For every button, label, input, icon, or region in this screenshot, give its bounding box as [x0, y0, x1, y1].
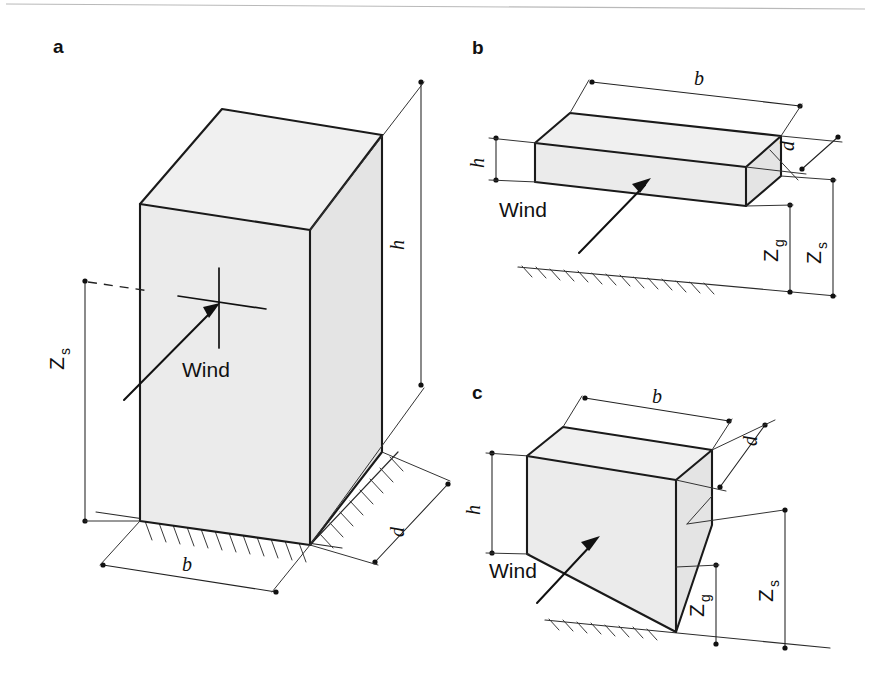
figure-page: a — [0, 0, 871, 692]
svg-text:h: h — [462, 505, 484, 515]
panel-b-Zg-label: Z g — [759, 239, 787, 262]
panel-b-Zs-dimension — [781, 176, 836, 299]
panel-c-b-label: b — [652, 385, 662, 407]
svg-text:g: g — [771, 239, 787, 247]
panel-b-h-dimension — [489, 135, 537, 182]
panel-a-d-label: d — [386, 526, 408, 537]
svg-text:Z: Z — [45, 357, 68, 370]
panel-b-Zg-dimension — [746, 202, 793, 294]
panel-a-letter: a — [53, 36, 64, 57]
panel-c-Zs-dimension — [782, 507, 787, 650]
panel-a-h-label: h — [386, 240, 408, 250]
panel-c-Zs-label: Z s — [754, 580, 782, 602]
panel-a: a — [45, 36, 451, 595]
panel-c: c — [462, 382, 830, 651]
panel-b-wind-label: Wind — [499, 198, 547, 221]
svg-text:d: d — [386, 526, 408, 537]
svg-text:Z: Z — [754, 589, 777, 602]
wind-load-diagram: a — [0, 0, 871, 692]
svg-text:d: d — [739, 435, 761, 446]
panel-c-h-label: h — [462, 505, 484, 515]
svg-text:h: h — [386, 240, 408, 250]
panel-b-b-label: b — [694, 67, 704, 89]
panel-c-ground — [545, 619, 830, 648]
panel-c-front-face — [527, 456, 676, 632]
panel-c-Zg-label: Z g — [685, 594, 713, 617]
svg-text:s: s — [814, 242, 830, 249]
panel-c-h-dimension — [486, 450, 529, 555]
panel-b-h-label: h — [466, 158, 488, 168]
panel-c-wind-label: Wind — [489, 559, 537, 582]
panel-a-wind-label: Wind — [182, 358, 230, 381]
panel-b: b — [466, 37, 842, 299]
svg-text:s: s — [766, 580, 782, 587]
panel-b-d-label: d — [776, 140, 798, 151]
svg-text:s: s — [57, 348, 73, 355]
panel-b-Zs-label: Z s — [802, 242, 830, 264]
panel-c-letter: c — [472, 382, 483, 403]
svg-text:Z: Z — [802, 251, 825, 264]
panel-a-Zs-label: Z s — [45, 348, 73, 370]
svg-text:g: g — [697, 594, 713, 602]
svg-text:d: d — [776, 140, 798, 151]
scan-artifact-line — [6, 4, 865, 9]
panel-b-letter: b — [472, 37, 484, 58]
svg-text:Z: Z — [759, 249, 782, 262]
panel-a-b-label: b — [182, 553, 192, 575]
panel-c-d-label: d — [739, 435, 761, 446]
svg-text:h: h — [466, 158, 488, 168]
svg-text:Z: Z — [685, 604, 708, 617]
